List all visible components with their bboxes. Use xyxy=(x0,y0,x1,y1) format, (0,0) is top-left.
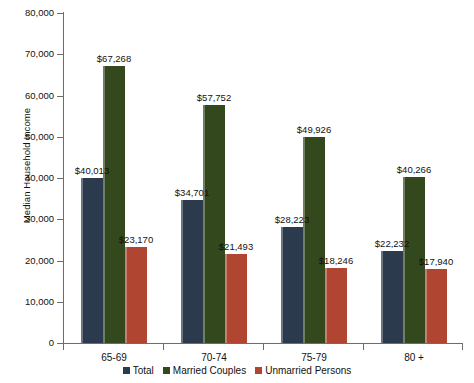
x-axis-category-label: 80 + xyxy=(369,352,459,363)
x-tick xyxy=(163,343,164,350)
bar-value-label: $28,223 xyxy=(264,214,320,225)
bar-value-label: $23,170 xyxy=(108,234,164,245)
bar-highlight-edge xyxy=(303,137,305,343)
bar-value-label: $49,926 xyxy=(286,124,342,135)
x-axis-category-label: 70-74 xyxy=(169,352,259,363)
bar-value-label: $21,493 xyxy=(208,241,264,252)
bar[interactable] xyxy=(125,247,147,343)
bar-highlight-edge xyxy=(325,268,327,343)
x-tick xyxy=(363,343,364,350)
legend-item[interactable]: Total xyxy=(123,365,154,376)
bar[interactable] xyxy=(381,251,403,343)
legend-swatch-icon xyxy=(255,367,262,374)
bar[interactable] xyxy=(225,254,247,343)
bar[interactable] xyxy=(325,268,347,343)
bar[interactable] xyxy=(81,178,103,343)
legend-swatch-icon xyxy=(163,367,170,374)
bar-highlight-edge xyxy=(403,177,405,343)
bar[interactable] xyxy=(203,105,225,343)
bar-highlight-edge xyxy=(225,254,227,343)
bar-highlight-edge xyxy=(125,247,127,343)
x-axis-category-label: 75-79 xyxy=(269,352,359,363)
legend-item[interactable]: Unmarried Persons xyxy=(255,365,351,376)
bar-highlight-edge xyxy=(203,105,205,343)
bar-value-label: $57,752 xyxy=(186,92,242,103)
bar-value-label: $40,266 xyxy=(386,164,442,175)
bar[interactable] xyxy=(281,227,303,343)
bar-value-label: $18,246 xyxy=(308,255,364,266)
bar[interactable] xyxy=(181,200,203,343)
bar-highlight-edge xyxy=(381,251,383,343)
bar[interactable] xyxy=(425,269,447,343)
bar-highlight-edge xyxy=(181,200,183,343)
bar-value-label: $17,940 xyxy=(408,256,464,267)
legend-item[interactable]: Married Couples xyxy=(163,365,246,376)
chart-legend: TotalMarried CouplesUnmarried Persons xyxy=(0,365,474,376)
bar[interactable] xyxy=(303,137,325,343)
bar-value-label: $67,268 xyxy=(86,53,142,64)
bar-value-label: $34,701 xyxy=(164,187,220,198)
x-axis-category-label: 65-69 xyxy=(69,352,159,363)
x-tick xyxy=(462,343,463,350)
bar-value-label: $22,232 xyxy=(364,238,420,249)
x-tick xyxy=(263,343,264,350)
x-tick xyxy=(63,343,64,350)
bar-highlight-edge xyxy=(425,269,427,343)
legend-swatch-icon xyxy=(123,367,130,374)
bar-value-label: $40,013 xyxy=(64,165,120,176)
legend-label: Unmarried Persons xyxy=(265,365,351,376)
grouped-bar-chart: Median Household Income 010,00020,00030,… xyxy=(0,0,474,383)
bar-highlight-edge xyxy=(81,178,83,343)
bar-highlight-edge xyxy=(281,227,283,343)
legend-label: Married Couples xyxy=(173,365,246,376)
bar[interactable] xyxy=(103,66,125,343)
bar-highlight-edge xyxy=(103,66,105,343)
legend-label: Total xyxy=(133,365,154,376)
